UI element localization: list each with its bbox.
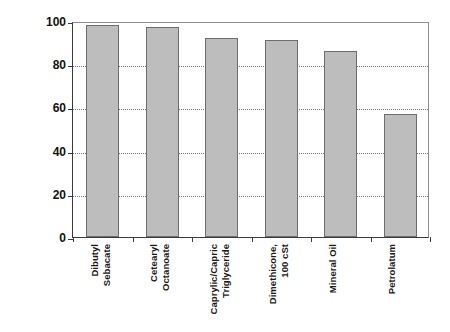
x-category-label: Dimethicone, 100 cSt [267, 244, 293, 332]
x-category-label: Dibutyl Sebacate [89, 244, 115, 332]
y-tick-label: 0 [40, 232, 66, 244]
bar [86, 25, 119, 237]
y-tick-mark [68, 23, 73, 24]
plot-area [72, 22, 429, 238]
x-category-label: Cetearyl Octanoate [148, 244, 174, 332]
x-category-label: Petrolatum [386, 244, 412, 332]
gridline [73, 66, 428, 67]
y-axis-tick-labels: 020406080100 [38, 0, 66, 332]
bar [384, 114, 417, 237]
x-tick-mark [73, 237, 74, 242]
y-tick-label: 40 [40, 146, 66, 158]
x-tick-mark [192, 237, 193, 242]
gridline [73, 109, 428, 110]
x-tick-mark [311, 237, 312, 242]
bar [146, 27, 179, 237]
bar [324, 51, 357, 237]
x-tick-mark [430, 237, 431, 242]
chart-figure: Percent of initial TEWL 020406080100 Dib… [0, 0, 450, 332]
y-tick-label: 80 [40, 59, 66, 71]
x-tick-mark [371, 237, 372, 242]
y-tick-label: 60 [40, 102, 66, 114]
x-tick-mark [252, 237, 253, 242]
x-category-label: Caprylic/Capric Triglyceride [208, 244, 234, 332]
bar [205, 38, 238, 237]
x-axis-category-labels: Dibutyl SebacateCetearyl OctanoateCapryl… [72, 244, 429, 332]
bar [265, 40, 298, 237]
gridline [73, 196, 428, 197]
y-tick-label: 100 [40, 16, 66, 28]
gridline [73, 153, 428, 154]
x-tick-mark [133, 237, 134, 242]
y-tick-label: 20 [40, 189, 66, 201]
x-category-label: Mineral Oil [327, 244, 353, 332]
